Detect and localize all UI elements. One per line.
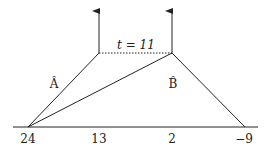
- diagram-canvas: t = 11 Â B̂ 24 13 2 −9: [0, 0, 273, 147]
- edge-b-to-neg9: [172, 53, 245, 127]
- node-label-a: Â: [49, 76, 59, 91]
- axis-label: −9: [235, 132, 253, 146]
- axis-label: 13: [91, 132, 106, 146]
- node-label-b: B̂: [169, 76, 178, 91]
- axis-label: 24: [20, 132, 36, 146]
- edge-a: [28, 53, 99, 127]
- axis-label: 2: [168, 132, 176, 146]
- time-label: t = 11: [117, 38, 155, 52]
